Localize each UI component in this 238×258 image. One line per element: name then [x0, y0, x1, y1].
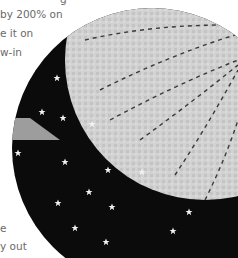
patch-circle	[0, 0, 238, 258]
quilt-patch-image	[0, 0, 238, 258]
